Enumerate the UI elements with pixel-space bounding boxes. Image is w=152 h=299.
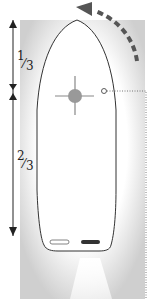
boat-pivot-diagram: 1 ⁄ 3 2 ⁄ 3 — [0, 0, 152, 299]
length-dimension — [9, 20, 17, 236]
right-propeller-icon — [81, 240, 100, 244]
reference-point-icon — [102, 89, 107, 94]
left-propeller-icon — [50, 240, 69, 244]
svg-text:3: 3 — [26, 159, 34, 173]
svg-text:3: 3 — [26, 59, 34, 73]
boat-hull — [37, 20, 116, 251]
